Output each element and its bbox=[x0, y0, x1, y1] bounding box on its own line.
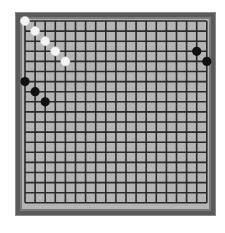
white-stone bbox=[41, 37, 50, 46]
black-stone bbox=[202, 57, 211, 66]
white-stone bbox=[20, 16, 29, 25]
black-stone bbox=[192, 47, 201, 56]
white-stone bbox=[61, 57, 70, 66]
go-board-grid[interactable] bbox=[0, 0, 225, 233]
white-stone bbox=[51, 47, 60, 56]
black-stone bbox=[20, 77, 29, 86]
black-stone bbox=[41, 97, 50, 106]
white-stone bbox=[30, 27, 39, 36]
black-stone bbox=[30, 87, 39, 96]
